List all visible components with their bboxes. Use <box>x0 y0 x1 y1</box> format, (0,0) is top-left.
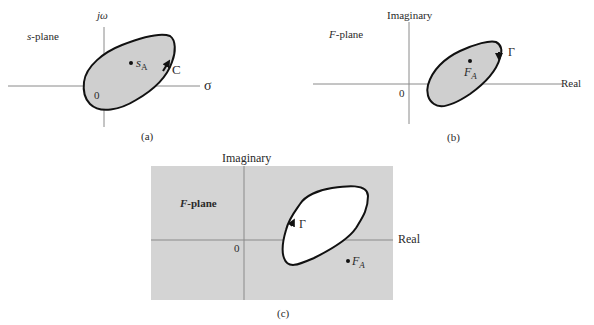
caption-c: (c) <box>277 307 290 320</box>
sigma-axis-label: σ <box>204 78 212 93</box>
origin-label: 0 <box>234 242 240 254</box>
imaginary-axis-label: Imaginary <box>222 151 271 165</box>
panel-a-s-plane: sA C jω σ 0 s-plane (a) <box>8 9 212 143</box>
real-axis-label: Real <box>561 77 581 89</box>
real-axis-label: Real <box>398 232 421 246</box>
contour-c-label: C <box>172 62 181 77</box>
contour-gamma-label: Γ <box>508 45 515 59</box>
contour-gamma-label: Γ <box>299 217 306 231</box>
caption-a: (a) <box>141 130 154 143</box>
caption-b: (b) <box>447 131 460 144</box>
point-sa <box>129 61 133 65</box>
origin-label: 0 <box>94 89 100 101</box>
point-fa <box>346 259 350 263</box>
conformal-mapping-figure: sA C jω σ 0 s-plane (a) FA Γ Imaginary R… <box>0 0 594 325</box>
plane-label: F-plane <box>179 197 217 209</box>
imaginary-axis-label: Imaginary <box>387 9 433 21</box>
jw-axis-label: jω <box>95 9 108 21</box>
plane-label: F-plane <box>328 28 363 40</box>
panel-c-f-plane: FA Γ Imaginary Real 0 F-plane (c) <box>151 151 421 320</box>
plane-label: s-plane <box>27 30 59 42</box>
origin-label: 0 <box>399 87 405 99</box>
point-fa <box>468 59 472 63</box>
panel-b-f-plane: FA Γ Imaginary Real 0 F-plane (b) <box>313 9 581 144</box>
